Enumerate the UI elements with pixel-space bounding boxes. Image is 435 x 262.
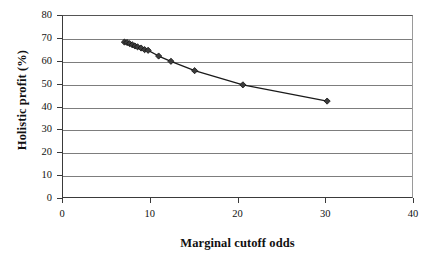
y-tick-label-0: 0	[26, 192, 52, 203]
y-tick-label-70: 70	[26, 32, 52, 43]
series-polyline	[124, 42, 327, 101]
data-series-line	[63, 16, 414, 199]
series-markers	[121, 39, 330, 104]
data-point-marker	[192, 68, 198, 74]
x-tick-label-10: 10	[135, 208, 165, 219]
y-tick-label-40: 40	[26, 101, 52, 112]
x-tick-label-40: 40	[398, 208, 428, 219]
x-tick-mark-40	[413, 198, 414, 203]
data-point-marker	[156, 53, 162, 59]
x-tick-label-0: 0	[47, 208, 77, 219]
x-tick-mark-30	[325, 198, 326, 203]
x-tick-mark-0	[62, 198, 63, 203]
x-tick-label-20: 20	[223, 208, 253, 219]
x-tick-label-30: 30	[310, 208, 340, 219]
data-point-marker	[240, 82, 246, 88]
chart-figure: Holistic profit (%) 01020304050607080 01…	[0, 0, 435, 262]
data-point-marker	[168, 58, 174, 64]
plot-area	[62, 15, 413, 198]
y-tick-label-30: 30	[26, 123, 52, 134]
y-tick-label-60: 60	[26, 55, 52, 66]
x-axis-title: Marginal cutoff odds	[62, 236, 413, 251]
y-tick-label-50: 50	[26, 78, 52, 89]
data-point-marker	[324, 98, 330, 104]
y-tick-label-10: 10	[26, 169, 52, 180]
x-tick-mark-10	[150, 198, 151, 203]
x-tick-mark-20	[238, 198, 239, 203]
y-tick-label-20: 20	[26, 146, 52, 157]
y-tick-label-80: 80	[26, 9, 52, 20]
